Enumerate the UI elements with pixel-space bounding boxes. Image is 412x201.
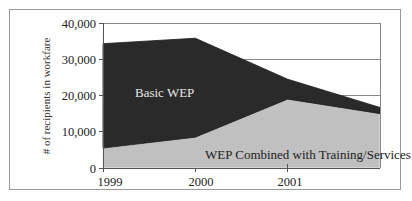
y-tick-0: 0	[90, 162, 96, 176]
x-tick-2000: 2000	[189, 175, 214, 189]
label-basic-wep: Basic WEP	[135, 85, 194, 100]
x-tick-labels: 1999 2000 2001	[98, 175, 303, 189]
x-tick-1999: 1999	[98, 175, 123, 189]
y-ticks	[99, 24, 103, 169]
y-tick-30000: 30,000	[62, 53, 96, 67]
y-tick-10000: 10,000	[62, 125, 96, 139]
stacked-area-chart: # of recipients in workfare 40,000 30,00…	[0, 0, 412, 201]
y-tick-labels: 40,000 30,000 20,000 10,000 0	[62, 17, 96, 176]
y-tick-40000: 40,000	[62, 17, 96, 31]
x-tick-2001: 2001	[278, 175, 303, 189]
y-axis-label: # of recipients in workfare	[40, 38, 52, 155]
label-wep-combined: WEP Combined with Training/Services	[205, 147, 411, 162]
y-tick-20000: 20,000	[62, 89, 96, 103]
